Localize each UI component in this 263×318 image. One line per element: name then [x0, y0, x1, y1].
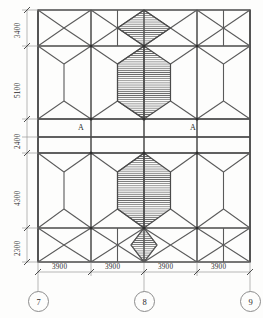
hatched-panel-bottom — [131, 228, 157, 262]
panel-label-a-left: A — [78, 123, 84, 132]
vertical-dimension-chain — [22, 10, 38, 262]
vertical-dimension-5100: 5100 — [14, 83, 22, 98]
horizontal-dimension-bay-2: 3900 — [105, 263, 120, 271]
hatched-panel-top — [118, 10, 171, 46]
panel-label-a-right: A — [190, 123, 196, 132]
vertical-dimension-2400: 2400 — [14, 134, 22, 149]
horizontal-dimension-bay-1: 3900 — [52, 263, 67, 271]
grid-label-9[interactable]: 9 — [240, 291, 261, 312]
vertical-dimension-3400: 3400 — [14, 23, 22, 38]
vertical-dimension-4300: 4300 — [14, 191, 22, 206]
vertical-dimension-2300: 2300 — [14, 241, 22, 256]
horizontal-dimension-bay-4: 3900 — [211, 263, 226, 271]
grid-label-8[interactable]: 8 — [134, 291, 155, 312]
grid-label-7[interactable]: 7 — [28, 291, 49, 312]
horizontal-dimension-bay-3: 3900 — [158, 263, 173, 271]
drawing-sheet: 3400 5100 2400 4300 2300 3900 3900 3900 … — [0, 0, 263, 318]
